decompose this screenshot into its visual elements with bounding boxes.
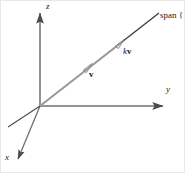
vector-kv-label: kv: [123, 47, 132, 56]
x-axis-line: [18, 106, 40, 159]
vector-v-label: v: [89, 70, 94, 79]
x-axis-label: x: [5, 153, 9, 162]
vector-kv-vectorpart: v: [127, 46, 132, 56]
x-axis: [18, 106, 40, 159]
y-axis-label: y: [166, 85, 170, 94]
vector-ray: [40, 42, 122, 106]
diagram-canvas: [0, 0, 185, 173]
vector-span-figure: z y x v kv span {: [0, 0, 185, 173]
z-axis-label: z: [46, 2, 50, 11]
span-set-label: span {: [160, 11, 183, 20]
vector-kv-shaft: [40, 42, 122, 106]
